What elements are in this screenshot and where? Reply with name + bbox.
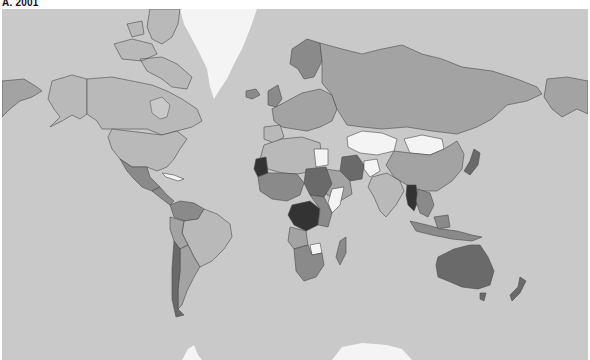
map-title: A. 2001	[2, 0, 38, 8]
world-map	[2, 9, 588, 360]
region-egypt	[314, 149, 328, 167]
